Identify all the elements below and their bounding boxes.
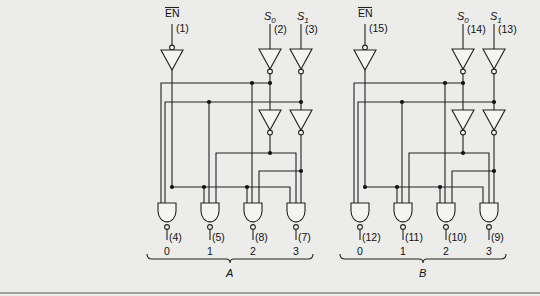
- s1-pin-number: (13): [498, 23, 517, 35]
- inversion-bubble: [268, 69, 273, 74]
- inversion-bubble: [208, 225, 213, 230]
- inversion-bubble: [165, 225, 170, 230]
- junction-dot: [363, 185, 367, 189]
- output-nand-gate-1: [201, 203, 219, 222]
- output-nand-gate-3: [480, 203, 498, 222]
- inversion-bubble: [251, 225, 256, 230]
- inversion-bubble: [358, 225, 363, 230]
- junction-dot: [170, 185, 174, 189]
- junction-dot: [492, 169, 496, 173]
- output-index-2: 2: [250, 245, 256, 257]
- output-index-0: 0: [164, 245, 170, 257]
- enable-pin-number: (15): [369, 22, 388, 34]
- output-nand-gate-2: [437, 203, 455, 222]
- s1-inverter-2: [483, 110, 505, 130]
- junction-dot: [299, 169, 303, 173]
- inversion-bubble: [268, 130, 273, 135]
- enable-input-label: EN: [358, 7, 373, 19]
- junction-dot: [299, 100, 303, 104]
- output-nand-gate-0: [351, 203, 369, 222]
- s0-true-bus: [409, 153, 489, 203]
- inversion-bubble: [401, 225, 406, 230]
- s0-inverter-1: [259, 49, 281, 69]
- inversion-bubble: [492, 69, 497, 74]
- enable-pin-number: (1): [176, 22, 189, 34]
- section-label: B: [419, 267, 426, 279]
- junction-dot: [268, 81, 272, 85]
- inversion-bubble: [299, 130, 304, 135]
- decoder-schematic: EN(1)S0(2)S1(3)(4)0(5)1(8)2(7)3A EN(15)S…: [0, 0, 540, 296]
- s0-inverter-2: [452, 110, 474, 130]
- output-pin-number-3: (9): [491, 231, 504, 243]
- output-group-brace: [340, 254, 506, 263]
- output-index-2: 2: [443, 245, 449, 257]
- output-pin-number-1: (11): [405, 231, 423, 243]
- junction-dot: [492, 100, 496, 104]
- inversion-bubble: [492, 130, 497, 135]
- inversion-bubble: [487, 225, 492, 230]
- s1-pin-number: (3): [305, 23, 318, 35]
- inversion-bubble: [461, 69, 466, 74]
- output-index-1: 1: [400, 245, 406, 257]
- inversion-bubble: [461, 130, 466, 135]
- enable-input-buffer: [161, 50, 183, 70]
- s1-inverter-2: [290, 110, 312, 130]
- output-group-brace: [147, 254, 313, 263]
- s0-pin-number: (2): [274, 23, 287, 35]
- output-pin-number-1: (5): [212, 231, 225, 243]
- enable-bus: [172, 187, 290, 203]
- enable-input-buffer: [354, 50, 376, 70]
- inversion-bubble: [299, 69, 304, 74]
- inversion-bubble: [363, 45, 368, 50]
- inversion-bubble: [444, 225, 449, 230]
- output-pin-number-0: (4): [169, 231, 182, 243]
- junction-dot: [268, 151, 272, 155]
- output-nand-gate-3: [287, 203, 305, 222]
- output-index-1: 1: [207, 245, 213, 257]
- enable-bus: [365, 187, 483, 203]
- inversion-bubble: [294, 225, 299, 230]
- decoder-section-b: EN(15)S0(14)S1(13)(12)0(11)1(10)2(9)3B: [340, 7, 517, 279]
- junction-dot: [461, 81, 465, 85]
- output-index-0: 0: [357, 245, 363, 257]
- output-pin-number-2: (10): [448, 231, 467, 243]
- decoder-section-a: EN(1)S0(2)S1(3)(4)0(5)1(8)2(7)3A: [147, 7, 318, 279]
- output-pin-number-3: (7): [298, 231, 311, 243]
- enable-input-label: EN: [165, 7, 180, 19]
- section-label: A: [225, 267, 233, 279]
- s1-inverter-1: [290, 49, 312, 69]
- output-pin-number-0: (12): [362, 231, 381, 243]
- output-nand-gate-2: [244, 203, 262, 222]
- output-nand-gate-0: [158, 203, 176, 222]
- s0-pin-number: (14): [467, 23, 486, 35]
- output-index-3: 3: [486, 245, 492, 257]
- s0-true-bus: [216, 153, 296, 203]
- output-nand-gate-1: [394, 203, 412, 222]
- s0-inverter-1: [452, 49, 474, 69]
- output-index-3: 3: [293, 245, 299, 257]
- s0-inverter-2: [259, 110, 281, 130]
- s1-inverter-1: [483, 49, 505, 69]
- output-pin-number-2: (8): [255, 231, 268, 243]
- junction-dot: [461, 151, 465, 155]
- inversion-bubble: [170, 45, 175, 50]
